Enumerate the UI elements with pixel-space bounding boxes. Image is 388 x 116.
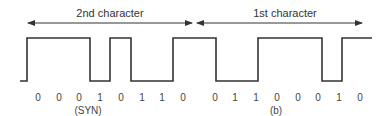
bit-label: 0 — [357, 92, 363, 103]
bit-label: 0 — [212, 92, 218, 103]
signal-waveform — [20, 38, 372, 81]
bit-labels: 0 0 0 1 0 1 1 0 0 1 1 0 0 0 1 0 — [35, 92, 363, 103]
bit-label: 1 — [253, 92, 259, 103]
bit-label: 0 — [76, 92, 82, 103]
bit-label: 0 — [315, 92, 321, 103]
bit-label: 1 — [159, 92, 165, 103]
second-character-label: 2nd character — [76, 7, 144, 19]
first-character-label: 1st character — [253, 7, 317, 19]
synchronous-character-waveform-diagram: 2nd character 1st character 0 0 0 1 0 1 … — [0, 0, 388, 116]
bit-label: 0 — [295, 92, 301, 103]
bit-label: 0 — [180, 92, 186, 103]
syn-annotation: (SYN) — [74, 105, 101, 116]
bit-label: 1 — [336, 92, 342, 103]
bit-label: 1 — [232, 92, 238, 103]
bit-label: 1 — [139, 92, 145, 103]
bit-label: 0 — [56, 92, 62, 103]
bit-label: 0 — [118, 92, 124, 103]
bit-label: 0 — [274, 92, 280, 103]
bit-label: 1 — [97, 92, 103, 103]
bit-label: 0 — [35, 92, 41, 103]
figure-label: (b) — [270, 105, 282, 116]
